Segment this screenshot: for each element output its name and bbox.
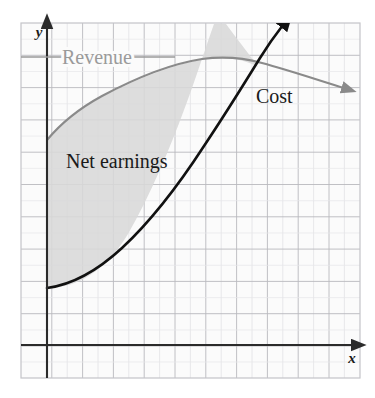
x-axis-label: x [347,350,356,366]
cost-label: Cost [256,85,293,107]
revenue-cost-diagram: y x Revenue Revenue Cost Net earnings [0,0,375,398]
y-axis-label: y [34,24,43,40]
figure-container: y x Revenue Revenue Cost Net earnings [0,0,375,398]
net-earnings-label: Net earnings [66,150,168,173]
revenue-label: Revenue [62,46,132,68]
